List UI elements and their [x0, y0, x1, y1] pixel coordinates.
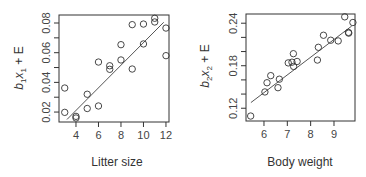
- data-point: [118, 57, 124, 63]
- x-tick-label: 12: [160, 129, 172, 141]
- data-point: [152, 19, 158, 25]
- y-title-tail: + E: [12, 46, 26, 68]
- y-tick-label: 0.04: [40, 72, 52, 93]
- regression-line: [67, 22, 164, 119]
- x-tick-label: 4: [73, 129, 79, 141]
- x-tick-label: 10: [137, 129, 149, 141]
- y-tick-label: 0.08: [40, 12, 52, 33]
- x-axis-title: Body weight: [267, 155, 333, 169]
- y-axis-title: b2x2 + E: [198, 44, 214, 87]
- data-point: [264, 80, 270, 86]
- panel-litter-size: 46810120.020.040.060.08 Litter size b1x1…: [12, 12, 172, 169]
- figure: 46810120.020.040.060.08 Litter size b1x1…: [0, 0, 366, 177]
- data-point: [140, 41, 146, 47]
- plot-frame: [246, 14, 355, 121]
- plot-frame: [59, 15, 169, 122]
- data-point: [95, 59, 101, 65]
- data-point: [342, 14, 348, 20]
- data-point: [84, 105, 90, 111]
- data-point: [320, 32, 326, 38]
- x-tick-label: 6: [95, 129, 101, 141]
- x-tick-label: 6: [261, 128, 267, 140]
- y-tick-label: 0.02: [40, 101, 52, 122]
- x-tick-label: 8: [308, 128, 314, 140]
- data-point: [163, 52, 169, 58]
- x-axis-title: Litter size: [91, 155, 143, 169]
- data-point: [62, 109, 68, 115]
- y-tick-label: 0.24: [227, 13, 239, 34]
- data-point: [62, 85, 68, 91]
- y-tick-label: 0.12: [227, 98, 239, 119]
- data-point: [118, 41, 124, 47]
- panel-body-weight: 67890.120.180.24 Body weight b2x2 + E: [198, 13, 356, 169]
- data-point: [84, 91, 90, 97]
- data-point: [152, 15, 158, 21]
- data-point: [247, 113, 253, 119]
- data-point: [140, 21, 146, 27]
- data-point: [129, 66, 135, 72]
- data-point: [275, 84, 281, 90]
- data-point: [290, 50, 296, 56]
- y-tick-label: 0.18: [227, 55, 239, 76]
- data-point: [315, 44, 321, 50]
- x-tick-label: 8: [118, 129, 124, 141]
- y-axis-title: b1x1 + E: [12, 46, 28, 89]
- y-title-tail: + E: [198, 44, 212, 66]
- data-point: [129, 21, 135, 27]
- data-point: [268, 72, 274, 78]
- data-point: [314, 57, 320, 63]
- data-point: [95, 103, 101, 109]
- regression-line: [251, 26, 352, 103]
- data-point: [335, 38, 341, 44]
- data-point: [163, 25, 169, 31]
- x-tick-label: 7: [284, 128, 290, 140]
- y-tick-label: 0.06: [40, 42, 52, 63]
- x-tick-label: 9: [331, 128, 337, 140]
